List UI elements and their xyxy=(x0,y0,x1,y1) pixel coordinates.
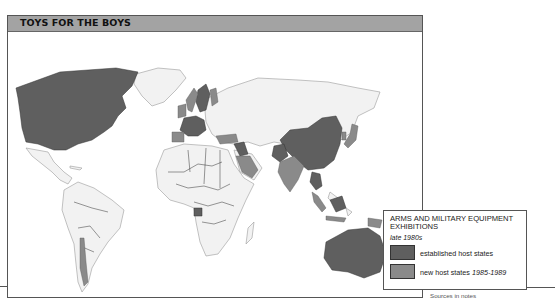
sumatra xyxy=(312,192,326,212)
australia xyxy=(324,228,386,278)
norway xyxy=(186,88,198,112)
thailand xyxy=(310,172,322,190)
map-title: TOYS FOR THE BOYS xyxy=(20,17,131,28)
title-bar: TOYS FOR THE BOYS xyxy=(8,16,422,32)
mexico-central-america xyxy=(26,148,72,184)
greenland xyxy=(134,68,186,106)
rule-left xyxy=(0,286,7,287)
legend-title: ARMS AND MILITARY EQUIPMENT EXHIBITIONS xyxy=(390,215,526,231)
swatch-new xyxy=(390,264,415,279)
spain xyxy=(172,132,184,142)
swatch-established xyxy=(390,245,415,260)
korea xyxy=(342,132,346,140)
sources-note: Sources in notes xyxy=(430,292,476,299)
north-america xyxy=(16,68,138,150)
legend: ARMS AND MILITARY EQUIPMENT EXHIBITIONS … xyxy=(383,210,527,290)
legend-label-established: established host states xyxy=(420,249,493,258)
map-frame: TOYS FOR THE BOYS xyxy=(7,15,423,298)
java xyxy=(326,216,346,222)
png xyxy=(368,218,382,228)
legend-label-new: new host states 1985-1989 xyxy=(420,268,506,277)
world-map xyxy=(8,32,422,297)
turkey xyxy=(216,134,238,144)
gabon xyxy=(194,208,202,216)
uk xyxy=(178,104,186,118)
legend-subtitle: late 1980s xyxy=(390,234,422,241)
south-america xyxy=(62,182,124,292)
